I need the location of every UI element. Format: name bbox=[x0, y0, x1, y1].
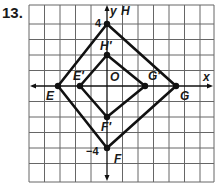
point-E bbox=[55, 83, 61, 89]
label-E-prime: E′ bbox=[73, 69, 85, 83]
coordinate-grid: y x 4 −4 O H E G F H′ E′ G′ F′ bbox=[0, 0, 223, 187]
label-E: E bbox=[46, 89, 55, 103]
y-axis-label: y bbox=[109, 4, 118, 18]
point-G bbox=[173, 83, 179, 89]
y-tick-neg4: −4 bbox=[86, 145, 99, 157]
x-axis-arrow-right bbox=[207, 84, 213, 89]
x-axis-arrow-left bbox=[30, 84, 36, 89]
label-H-prime: H′ bbox=[100, 39, 113, 53]
label-F-prime: F′ bbox=[101, 120, 112, 134]
label-H: H bbox=[121, 4, 130, 18]
point-G-prime bbox=[142, 83, 148, 89]
y-axis-arrow-down bbox=[105, 175, 110, 181]
label-G-prime: G′ bbox=[148, 69, 161, 83]
y-axis-arrow-up bbox=[105, 5, 110, 11]
origin-label: O bbox=[110, 70, 120, 84]
x-axis-label: x bbox=[202, 70, 211, 84]
label-F: F bbox=[114, 152, 122, 166]
y-tick-4: 4 bbox=[95, 17, 102, 29]
label-G: G bbox=[180, 89, 189, 103]
point-F bbox=[104, 145, 110, 151]
point-H bbox=[104, 21, 110, 27]
point-E-prime bbox=[77, 83, 83, 89]
